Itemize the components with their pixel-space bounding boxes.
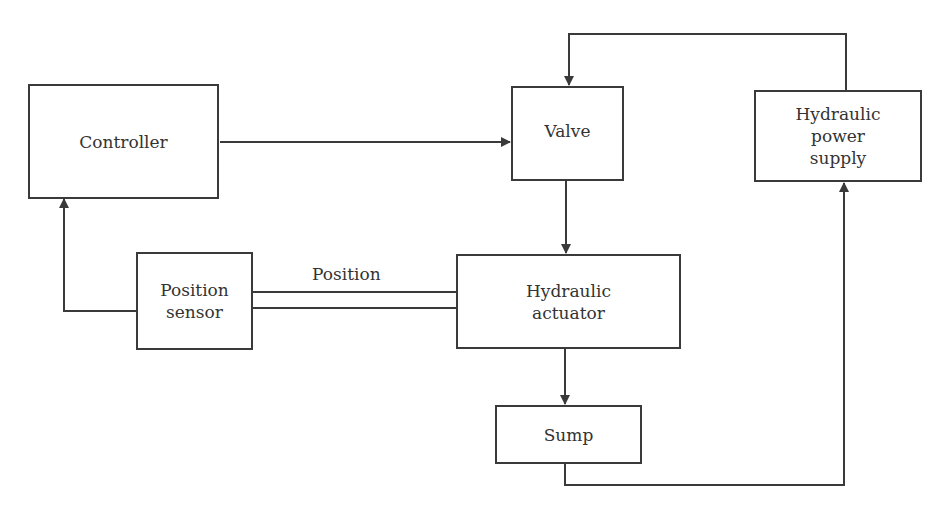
sump-block: Sump bbox=[495, 405, 642, 464]
controller-label: Controller bbox=[79, 131, 167, 153]
sump-label: Sump bbox=[544, 424, 594, 446]
power-supply-label: Hydraulic power supply bbox=[796, 103, 881, 169]
position-sensor-label: Position sensor bbox=[160, 279, 229, 323]
power-supply-block: Hydraulic power supply bbox=[754, 90, 922, 182]
actuator-label: Hydraulic actuator bbox=[526, 280, 611, 324]
arrow-sensor-to-controller bbox=[64, 199, 136, 311]
actuator-block: Hydraulic actuator bbox=[456, 254, 681, 349]
position-sensor-block: Position sensor bbox=[136, 252, 253, 350]
controller-block: Controller bbox=[28, 84, 219, 199]
arrow-power-supply-to-valve bbox=[569, 34, 846, 90]
position-edge-label: Position bbox=[312, 264, 381, 284]
valve-block: Valve bbox=[511, 86, 624, 181]
valve-label: Valve bbox=[545, 120, 591, 142]
